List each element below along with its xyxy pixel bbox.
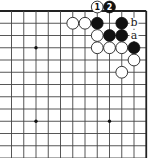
black-stone [91,17,103,29]
black-stone [116,30,128,42]
white-stone [91,42,103,54]
point-labels: ba [130,16,139,41]
go-board-diagram: ba 12 [0,0,153,158]
white-stone [116,66,128,78]
star-point [108,120,111,123]
star-point [34,46,37,49]
point-label-b: b [130,16,137,29]
move-number-2: 2 [107,3,113,12]
white-stone [116,42,128,54]
move-number-1: 1 [94,3,100,12]
point-label-a: a [131,29,138,42]
white-stone [91,30,103,42]
white-stone [67,17,79,29]
white-stone [104,42,116,54]
black-stone [128,42,140,54]
black-stone [116,17,128,29]
stones: 12 [67,1,140,78]
star-point [34,120,37,123]
black-stone [104,30,116,42]
white-stone [128,54,140,66]
white-stone [79,17,91,29]
